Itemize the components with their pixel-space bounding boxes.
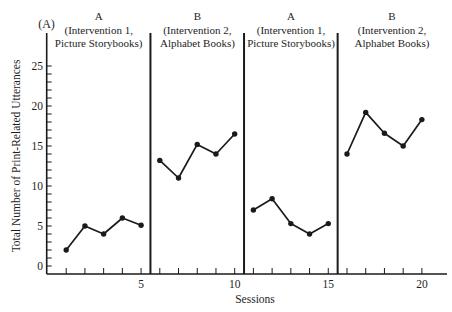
panel-label: (A) xyxy=(38,17,55,31)
data-point xyxy=(251,207,256,212)
data-point xyxy=(157,158,162,163)
x-tick-label: 20 xyxy=(416,278,428,290)
series-line xyxy=(160,134,235,178)
y-tick-label: 25 xyxy=(32,60,44,72)
data-point xyxy=(195,142,200,147)
data-point xyxy=(269,196,274,201)
data-point xyxy=(82,223,87,228)
phase-description-line1: (Intervention 1, xyxy=(64,24,133,37)
y-tick-label: 5 xyxy=(37,220,43,232)
phase-description-line1: (Intervention 2, xyxy=(358,24,427,37)
data-point xyxy=(213,151,218,156)
axes: 05101520255101520 xyxy=(32,33,448,290)
phase-code: A xyxy=(95,10,103,22)
y-tick-label: 10 xyxy=(32,180,44,192)
phase-description-line1: (Intervention 1, xyxy=(257,24,326,37)
x-tick-label: 10 xyxy=(229,278,241,290)
y-tick-label: 0 xyxy=(37,260,43,272)
phase-header-4: B (Intervention 2, Alphabet Books) xyxy=(355,10,430,50)
data-point xyxy=(344,151,349,156)
phase-code: A xyxy=(287,10,295,22)
y-tick-label: 20 xyxy=(32,100,44,112)
single-case-design-chart: (A) A (Intervention 1, Picture Storybook… xyxy=(0,0,452,312)
phase-series-3 xyxy=(251,196,331,237)
data-point xyxy=(363,110,368,115)
phase-header-3: A (Intervention 1, Picture Storybooks) xyxy=(247,10,335,50)
phase-description-line2: Picture Storybooks) xyxy=(55,37,143,50)
phase-description-line1: (Intervention 2, xyxy=(163,24,232,37)
data-point xyxy=(63,247,68,252)
data-point xyxy=(307,231,312,236)
data-point xyxy=(176,175,181,180)
phase-code: B xyxy=(388,10,395,22)
x-tick-label: 5 xyxy=(138,278,144,290)
x-axis-title: Sessions xyxy=(235,293,275,305)
phase-description-line2: Alphabet Books) xyxy=(355,37,430,50)
data-point xyxy=(288,221,293,226)
phase-code: B xyxy=(194,10,201,22)
data-point xyxy=(232,131,237,136)
data-point xyxy=(138,223,143,228)
phase-series-1 xyxy=(63,215,143,252)
x-tick-label: 15 xyxy=(323,278,335,290)
data-point xyxy=(419,117,424,122)
data-point xyxy=(101,231,106,236)
chart-canvas: (A) A (Intervention 1, Picture Storybook… xyxy=(0,0,452,312)
series-line xyxy=(253,199,328,234)
phase-header-1: A (Intervention 1, Picture Storybooks) xyxy=(55,10,143,50)
data-point xyxy=(382,131,387,136)
phase-change-lines xyxy=(150,33,337,274)
phase-series-2 xyxy=(157,131,237,180)
phase-description-line2: Alphabet Books) xyxy=(160,37,235,50)
data-point xyxy=(400,143,405,148)
data-point xyxy=(326,221,331,226)
phase-series-4 xyxy=(344,110,424,157)
phase-description-line2: Picture Storybooks) xyxy=(247,37,335,50)
phase-header-2: B (Intervention 2, Alphabet Books) xyxy=(160,10,235,50)
data-point xyxy=(120,215,125,220)
y-tick-label: 15 xyxy=(32,140,44,152)
y-axis-title: Total Number of Print-Related Utterances xyxy=(10,59,22,252)
